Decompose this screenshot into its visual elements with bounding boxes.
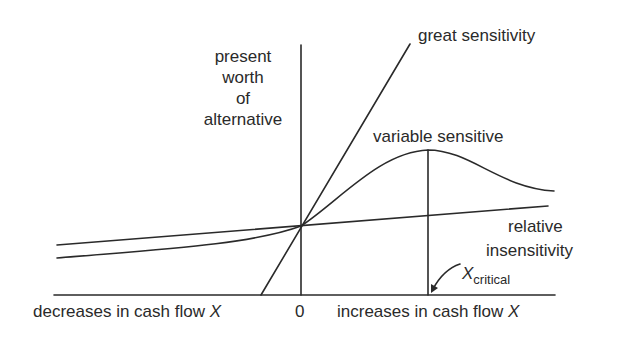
y-label-line: present (183, 46, 303, 67)
insensitivity-label: insensitivity (486, 241, 573, 261)
critical-arrow-icon (433, 264, 460, 289)
decreases-text: decreases in cash flow (33, 302, 210, 321)
x-var: X (210, 302, 221, 321)
variable-sensitive-curve (57, 150, 554, 258)
x-critical-label: Xcritical (462, 264, 510, 285)
increases-text: increases in cash flow (337, 302, 508, 321)
x-var: X (508, 302, 519, 321)
relative-label: relative (508, 217, 563, 237)
sensitivity-diagram: present worth of alternative great sensi… (0, 0, 635, 339)
origin-label: 0 (295, 302, 304, 322)
y-axis-label: present worth of alternative (183, 46, 303, 130)
x-critical-symbol: X (462, 264, 473, 283)
y-label-line: alternative (183, 109, 303, 130)
diagram-graphics (0, 0, 635, 339)
great-sensitivity-label: great sensitivity (418, 26, 535, 46)
x-critical-subscript: critical (473, 272, 510, 287)
y-label-line: of (183, 88, 303, 109)
x-axis-left-label: decreases in cash flow X (33, 302, 221, 322)
x-axis-right-label: increases in cash flow X (337, 302, 519, 322)
variable-sensitive-label: variable sensitive (373, 127, 503, 147)
y-label-line: worth (183, 67, 303, 88)
